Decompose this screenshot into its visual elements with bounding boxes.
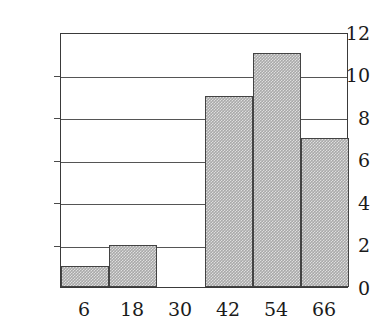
bar-18[interactable]: [109, 245, 157, 288]
x-axis-label-30: 30: [156, 300, 204, 319]
x-axis-label-18: 18: [108, 300, 156, 319]
bar-42[interactable]: [205, 96, 253, 287]
bar-6[interactable]: [61, 266, 109, 287]
plot-area: [60, 33, 348, 288]
chart-page: 12 10 8 6 4 2 0 6 18 30 42 54 66: [0, 0, 370, 335]
x-axis-label-66: 66: [300, 300, 348, 319]
x-axis-label-42: 42: [204, 300, 252, 319]
x-axis-label-6: 6: [60, 300, 108, 319]
x-axis-label-54: 54: [252, 300, 300, 319]
bar-group: [61, 34, 347, 287]
bar-66[interactable]: [301, 138, 349, 287]
bar-54[interactable]: [253, 53, 301, 287]
